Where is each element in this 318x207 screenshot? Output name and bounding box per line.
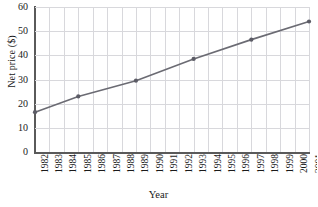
x-tick-label-2001: 2001	[314, 154, 318, 173]
data-point-1985	[76, 94, 80, 98]
x-tick-label-1989: 1989	[140, 154, 150, 173]
data-point-2001	[307, 19, 311, 23]
x-tick-label-1986: 1986	[97, 154, 107, 173]
x-tick-label-1985: 1985	[83, 154, 93, 173]
x-tick-label-1991: 1991	[169, 154, 179, 173]
x-tick-label-1990: 1990	[155, 154, 165, 173]
x-axis-title: Year	[0, 189, 317, 200]
line-series-net-price	[35, 7, 309, 152]
x-tick-label-1992: 1992	[184, 154, 194, 173]
x-tick-label-1995: 1995	[227, 154, 237, 173]
data-point-1989	[134, 79, 138, 83]
data-series-layer	[35, 7, 309, 152]
series-line	[35, 22, 309, 113]
data-point-1982	[33, 110, 37, 114]
y-tick-label-10: 10	[18, 123, 28, 133]
x-tick-label-1997: 1997	[256, 154, 266, 173]
x-tick-label-1987: 1987	[112, 154, 122, 173]
x-tick-label-1996: 1996	[241, 154, 251, 173]
y-tick-label-30: 30	[18, 75, 28, 85]
x-tick-label-1988: 1988	[126, 154, 136, 173]
x-tick-label-1984: 1984	[68, 154, 78, 173]
x-tick-label-1998: 1998	[270, 154, 280, 173]
gridline-vertical	[309, 7, 310, 152]
x-tick-label-1999: 1999	[285, 154, 295, 173]
y-axis-tick-labels: 0102030405060	[0, 0, 30, 160]
x-tick-label-1994: 1994	[213, 154, 223, 173]
data-point-1997	[249, 38, 253, 42]
y-tick-label-40: 40	[18, 50, 28, 60]
y-tick-label-50: 50	[18, 26, 28, 36]
y-tick-label-60: 60	[18, 2, 28, 12]
x-axis-tick-labels: 1982198319841985198619871988198919901991…	[35, 154, 309, 190]
plot-area	[35, 7, 309, 152]
y-tick-label-0: 0	[23, 147, 28, 157]
data-point-1993	[192, 57, 196, 61]
y-tick-label-20: 20	[18, 99, 28, 109]
x-tick-label-1983: 1983	[54, 154, 64, 173]
x-tick-label-1982: 1982	[40, 154, 50, 173]
x-tick-label-1993: 1993	[198, 154, 208, 173]
x-tick-label-2000: 2000	[299, 154, 309, 173]
chart-container: Net price ($) 0102030405060 198219831984…	[0, 0, 317, 207]
